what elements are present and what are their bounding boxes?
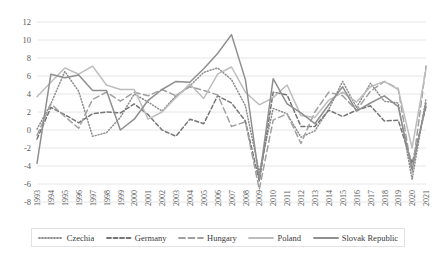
- y-axis-tick-label: -4: [24, 161, 32, 171]
- x-axis-tick-label: 2006: [214, 190, 223, 206]
- x-axis-tick-label: 1993: [33, 190, 42, 206]
- legend-line-swatch: [38, 234, 64, 242]
- legend-item-slovak-republic[interactable]: Slovak Republic: [313, 233, 398, 243]
- y-axis-tick-label: 12: [23, 17, 32, 27]
- y-axis-tick-label: -8: [24, 197, 31, 207]
- y-axis-tick-label: 0: [27, 125, 31, 135]
- legend-line-swatch: [313, 234, 339, 242]
- legend-item-hungary[interactable]: Hungary: [178, 233, 237, 243]
- legend-line-swatch: [106, 234, 132, 242]
- x-axis-tick-label: 1994: [47, 190, 56, 206]
- legend-item-label: Poland: [277, 233, 301, 243]
- legend-line-swatch: [178, 234, 204, 242]
- x-axis-tick-label: 2013: [311, 190, 320, 206]
- x-axis-tick-label: 2017: [367, 190, 376, 206]
- x-axis-tick-label: 2005: [200, 190, 209, 206]
- series-line-slovak-republic: [37, 35, 426, 180]
- x-axis-tick-label: 2008: [242, 190, 251, 206]
- x-axis-tick-label: 2012: [297, 190, 306, 206]
- x-axis-tick-label: 2018: [381, 190, 390, 206]
- x-axis-tick-label: 2000: [130, 190, 139, 206]
- legend-item-label: Slovak Republic: [342, 233, 398, 243]
- x-axis-tick-label: 2004: [186, 190, 195, 206]
- series-line-hungary: [37, 66, 426, 189]
- legend-item-label: Czechia: [67, 233, 94, 243]
- x-axis-tick-label: 2015: [339, 190, 348, 206]
- legend-item-germany[interactable]: Germany: [106, 233, 167, 243]
- line-chart: 121086420-2-4-6-819931994199519961997199…: [0, 0, 436, 260]
- x-axis-tick-label: 2019: [394, 190, 403, 206]
- x-axis-tick-label: 2010: [269, 190, 278, 206]
- x-axis-tick-label: 2014: [325, 190, 334, 206]
- legend-item-label: Germany: [135, 233, 167, 243]
- chart-plot-area: 121086420-2-4-6-819931994199519961997199…: [0, 0, 436, 260]
- series-line-czechia: [37, 68, 426, 180]
- x-axis-tick-label: 2009: [255, 190, 264, 206]
- x-axis-tick-label: 2011: [283, 190, 292, 206]
- y-axis-tick-label: -6: [24, 179, 31, 189]
- x-axis-tick-label: 1999: [117, 190, 126, 206]
- x-axis-tick-label: 1998: [103, 190, 112, 206]
- y-axis-tick-label: -2: [24, 143, 31, 153]
- x-axis-tick-label: 2001: [144, 190, 153, 206]
- chart-legend: CzechiaGermanyHungaryPolandSlovak Republ…: [31, 228, 405, 247]
- legend-line-swatch: [248, 234, 274, 242]
- series-line-germany: [37, 92, 426, 181]
- x-axis-tick-label: 1995: [61, 190, 70, 206]
- x-axis-tick-label: 2003: [172, 190, 181, 206]
- x-axis-tick-label: 1996: [75, 190, 84, 206]
- x-axis-tick-label: 2020: [408, 190, 417, 206]
- y-axis-tick-label: 4: [27, 89, 32, 99]
- legend-item-label: Hungary: [207, 233, 237, 243]
- y-axis-tick-label: 6: [27, 71, 31, 81]
- y-axis-tick-label: 10: [23, 35, 32, 45]
- y-axis-tick-label: 2: [27, 107, 31, 117]
- x-axis-tick-label: 2021: [422, 190, 431, 206]
- x-axis-tick-label: 2016: [353, 190, 362, 206]
- x-axis-tick-label: 2002: [158, 190, 167, 206]
- x-axis-tick-label: 2007: [228, 190, 237, 206]
- y-axis-tick-label: 8: [27, 53, 31, 63]
- legend-item-czechia[interactable]: Czechia: [38, 233, 94, 243]
- legend-item-poland[interactable]: Poland: [248, 233, 301, 243]
- x-axis-tick-label: 1997: [89, 190, 98, 206]
